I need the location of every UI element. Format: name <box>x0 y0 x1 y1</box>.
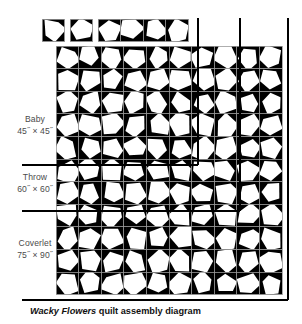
quilt-block <box>54 136 78 160</box>
quilt-block <box>146 272 169 295</box>
caption-suffix: quilt assembly diagram <box>96 306 201 316</box>
quilt-block <box>190 113 215 136</box>
quilt-block <box>101 182 125 205</box>
quilt-block <box>122 136 146 159</box>
quilt-block <box>237 272 261 295</box>
quilt-block <box>168 112 192 137</box>
quilt-field <box>54 45 285 297</box>
quilt-block <box>214 249 237 273</box>
quilt-block <box>214 227 237 252</box>
quilt-block <box>259 114 282 137</box>
quilt-block <box>79 269 102 295</box>
size-label-coverlet-name: Coverlet <box>2 238 68 250</box>
quilt-block <box>214 159 237 182</box>
quilt-block <box>122 46 146 70</box>
quilt-block <box>189 182 214 205</box>
quilt-block <box>56 90 79 114</box>
size-label-coverlet-dims: 75˝ × 90˝ <box>2 250 68 262</box>
quilt-block <box>169 46 192 69</box>
quilt-block <box>259 272 282 295</box>
quilt-block <box>167 272 192 295</box>
quilt-block <box>214 136 237 160</box>
quilt-block <box>214 67 238 91</box>
quilt-block <box>145 90 169 114</box>
quilt-block <box>124 114 147 138</box>
quilt-block <box>237 249 260 274</box>
quilt-block <box>167 69 192 92</box>
quilt-block <box>99 272 123 295</box>
quilt-block <box>77 157 102 182</box>
quilt-block <box>192 227 217 250</box>
quilt-block <box>169 182 192 206</box>
quilt-block <box>166 18 189 43</box>
quilt-block <box>169 91 192 114</box>
quilt-block <box>192 91 215 114</box>
quilt-block <box>214 204 237 227</box>
quilt-block <box>56 69 80 92</box>
size-label-coverlet: Coverlet 75˝ × 90˝ <box>2 238 68 261</box>
legend-unit-single-1 <box>42 19 67 42</box>
quilt-block <box>169 226 193 249</box>
quilt-block <box>124 69 148 92</box>
quilt-block <box>101 136 124 159</box>
quilt-block <box>191 249 214 272</box>
quilt-block <box>56 272 79 296</box>
quilt-block <box>56 46 80 69</box>
quilt-block <box>98 19 122 42</box>
quilt-block <box>124 204 147 227</box>
quilt-block <box>122 159 146 182</box>
legend-unit-strip-4 <box>98 18 189 43</box>
quilt-block <box>259 91 282 115</box>
quilt-block <box>146 227 169 250</box>
quilt-block <box>146 182 172 205</box>
quilt-block <box>100 227 124 250</box>
quilt-block <box>77 114 101 137</box>
quilt-block <box>79 69 102 92</box>
quilt-block <box>257 249 283 275</box>
quilt-block <box>56 204 79 227</box>
size-label-throw: Throw 60˝ × 60˝ <box>2 172 68 195</box>
quilt-block <box>101 249 124 272</box>
quilt-block <box>259 45 282 69</box>
quilt-block <box>192 270 215 294</box>
size-label-throw-dims: 60˝ × 60˝ <box>2 184 68 196</box>
size-label-baby: Baby 45˝ × 45˝ <box>2 114 68 137</box>
quilt-block <box>259 69 282 92</box>
size-label-baby-dims: 45˝ × 45˝ <box>2 126 68 138</box>
quilt-block <box>146 248 169 274</box>
quilt-block <box>99 46 124 72</box>
quilt-block <box>124 227 147 250</box>
quilt-block <box>124 249 147 272</box>
quilt-block <box>169 136 193 159</box>
quilt-block <box>259 227 282 251</box>
quilt-block <box>214 182 238 205</box>
quilt-block <box>190 46 215 69</box>
quilt-assembly-diagram: Baby 45˝ × 45˝ Throw 60˝ × 60˝ Coverlet … <box>0 0 302 324</box>
quilt-block <box>124 182 147 205</box>
quilt-block <box>101 158 124 182</box>
quilt-block <box>259 182 282 205</box>
quilt-block <box>78 227 101 250</box>
quilt-block <box>124 272 148 297</box>
quilt-block <box>190 204 214 227</box>
quilt-block <box>120 19 145 42</box>
quilt-block <box>79 136 102 159</box>
quilt-block <box>79 249 102 272</box>
quilt-block <box>259 136 282 159</box>
quilt-block <box>259 203 285 227</box>
quilt-block <box>79 45 102 69</box>
quilt-block <box>192 68 216 91</box>
quilt-block <box>143 19 168 42</box>
quilt-block <box>146 69 169 92</box>
quilt-block <box>101 113 125 137</box>
quilt-block <box>168 248 191 272</box>
quilt-block <box>146 45 169 69</box>
diagram-caption: Wacky Flowers quilt assembly diagram <box>30 306 290 316</box>
quilt-block <box>76 204 101 227</box>
quilt-block <box>169 159 192 182</box>
quilt-block <box>214 90 237 114</box>
size-label-throw-name: Throw <box>2 172 68 184</box>
quilt-block <box>192 136 217 162</box>
quilt-block <box>101 69 124 92</box>
caption-quilt-name: Wacky Flowers <box>30 306 96 316</box>
